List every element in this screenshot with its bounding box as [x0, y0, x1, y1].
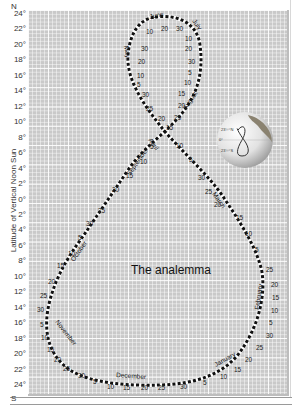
svg-text:30: 30	[78, 372, 86, 379]
svg-text:10: 10	[68, 250, 76, 257]
svg-text:20: 20	[178, 102, 186, 109]
svg-text:30: 30	[141, 45, 149, 52]
svg-text:15: 15	[166, 124, 174, 131]
analemma-curve-layer: 23½°N 0° 23½°S June July August Septembe…	[0, 0, 299, 415]
svg-text:25: 25	[205, 188, 213, 195]
svg-text:25: 25	[63, 365, 71, 372]
svg-text:15: 15	[236, 214, 244, 221]
svg-text:15: 15	[123, 384, 131, 391]
svg-text:15: 15	[126, 172, 134, 179]
svg-text:10: 10	[146, 28, 154, 35]
svg-text:5: 5	[269, 319, 273, 326]
svg-text:30: 30	[180, 383, 188, 390]
svg-text:10: 10	[107, 383, 115, 390]
month-label-may: May	[122, 45, 132, 59]
svg-text:10: 10	[137, 72, 145, 79]
svg-text:15: 15	[234, 366, 242, 373]
svg-text:15: 15	[57, 262, 65, 269]
svg-text:23½°S: 23½°S	[221, 148, 233, 153]
month-labels: June July August September October Novem…	[54, 10, 264, 380]
svg-text:15: 15	[178, 90, 186, 97]
svg-text:10: 10	[140, 158, 148, 165]
svg-text:30: 30	[86, 220, 94, 227]
svg-text:5: 5	[150, 143, 154, 150]
svg-text:20: 20	[138, 58, 146, 65]
svg-text:25: 25	[40, 292, 48, 299]
month-label-november: November	[54, 318, 78, 347]
svg-text:30: 30	[142, 91, 150, 98]
month-label-december: December	[116, 371, 147, 380]
svg-text:10: 10	[41, 334, 49, 341]
svg-text:5: 5	[188, 69, 192, 76]
svg-text:25: 25	[266, 266, 274, 273]
svg-text:20: 20	[271, 281, 279, 288]
svg-text:5: 5	[203, 379, 207, 386]
svg-text:30: 30	[198, 174, 206, 181]
svg-text:25: 25	[146, 105, 154, 112]
svg-text:25: 25	[174, 114, 182, 121]
svg-text:25: 25	[158, 384, 166, 391]
svg-text:10: 10	[271, 307, 279, 314]
svg-text:30: 30	[37, 306, 45, 313]
globe-icon: 23½°N 0° 23½°S	[217, 112, 273, 168]
svg-text:10: 10	[185, 35, 193, 42]
svg-text:25: 25	[256, 344, 264, 351]
svg-text:20: 20	[214, 201, 222, 208]
diagram-title: The analemma	[131, 263, 211, 277]
svg-text:25: 25	[98, 207, 106, 214]
svg-text:0°: 0°	[219, 137, 223, 142]
svg-text:20: 20	[48, 278, 56, 285]
svg-text:10: 10	[184, 79, 192, 86]
svg-text:30: 30	[176, 25, 184, 32]
svg-text:5: 5	[255, 246, 259, 253]
svg-text:20: 20	[141, 384, 149, 391]
svg-text:20: 20	[54, 356, 62, 363]
svg-text:5: 5	[137, 81, 141, 88]
svg-text:10: 10	[176, 142, 184, 149]
svg-text:20: 20	[245, 356, 253, 363]
svg-text:5: 5	[93, 378, 97, 385]
month-label-june: June	[149, 10, 165, 20]
svg-text:5: 5	[40, 321, 44, 328]
svg-text:15: 15	[272, 294, 280, 301]
svg-text:20: 20	[185, 45, 193, 52]
svg-text:20: 20	[158, 115, 166, 122]
svg-text:5: 5	[189, 156, 193, 163]
svg-text:5: 5	[78, 234, 82, 241]
svg-text:10: 10	[245, 230, 253, 237]
svg-text:15: 15	[47, 346, 55, 353]
svg-text:23½°N: 23½°N	[221, 127, 233, 132]
svg-text:30: 30	[266, 332, 274, 339]
svg-text:30: 30	[188, 58, 196, 65]
svg-text:20: 20	[112, 186, 120, 193]
svg-text:20: 20	[161, 25, 169, 32]
svg-text:10: 10	[220, 373, 228, 380]
